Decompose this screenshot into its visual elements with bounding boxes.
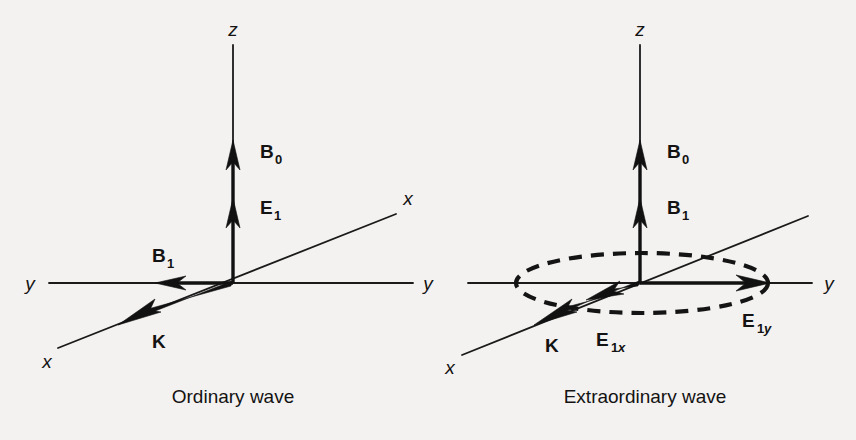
vector-E1-label-sub: 1	[274, 208, 281, 223]
vector-B1-2-label-sub: 1	[682, 208, 689, 223]
z-axis-label-2: z	[634, 19, 645, 40]
vector-K-arrowhead	[118, 299, 161, 325]
x-axis-line	[58, 214, 396, 348]
vector-K-2-label: K	[545, 335, 559, 356]
vector-E1-label: E 1	[260, 197, 281, 223]
vector-B1-label-sub: 1	[167, 256, 174, 271]
caption-ordinary-wave: Ordinary wave	[172, 386, 295, 407]
vector-K-2	[534, 290, 614, 325]
z-axis-label: z	[227, 19, 238, 40]
vector-E1y-label-sub2: y	[763, 321, 772, 336]
wave-propagation-figure: z y y x x B 0 E 1 B 1	[0, 0, 856, 440]
vector-B0-2-label-sub: 0	[682, 152, 689, 167]
vector-E1x-label-base: E	[596, 329, 609, 350]
vector-E1x-label: E 1 x	[596, 329, 626, 355]
panel-extraordinary-wave: z y x B 0 B 1 E 1 y	[444, 19, 835, 407]
vector-E1y	[640, 275, 770, 291]
caption-extraordinary-wave: Extraordinary wave	[564, 386, 727, 407]
vector-E1x-label-sub2: x	[617, 340, 626, 355]
x-axis-label-far: x	[402, 188, 414, 209]
vector-K-label: K	[152, 331, 166, 352]
vector-E1y-label: E 1 y	[742, 310, 772, 336]
vector-B1-label: B 1	[152, 245, 174, 271]
x-axis-label-near: x	[41, 351, 53, 372]
vector-B0-label-base: B	[260, 141, 274, 162]
panel-ordinary-wave: z y y x x B 0 E 1 B 1	[23, 19, 434, 407]
vector-B0-label-sub: 0	[275, 152, 282, 167]
vector-B0-2-label-base: B	[667, 141, 681, 162]
vector-B1-2-label-base: B	[667, 197, 681, 218]
vector-B0-label: B 0	[260, 141, 282, 167]
x-axis-label-near-2: x	[444, 357, 456, 378]
y-axis-label-right: y	[421, 273, 434, 294]
vector-B1-label-base: B	[152, 245, 166, 266]
vector-B1-2-label: B 1	[667, 197, 689, 223]
vector-E1y-label-base: E	[742, 310, 755, 331]
y-axis-label-right-2: y	[822, 273, 835, 294]
y-axis-label-left: y	[23, 273, 36, 294]
vector-E1-label-base: E	[260, 197, 273, 218]
vector-B0-2-label: B 0	[667, 141, 689, 167]
